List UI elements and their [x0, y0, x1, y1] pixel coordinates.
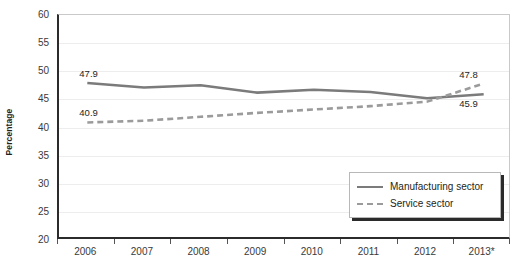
x-axis-tickmark: [340, 239, 341, 244]
x-axis-tickmark: [170, 239, 171, 244]
x-axis-tick-labels: 20062007200820092010201120122013*: [57, 239, 510, 265]
series-line-service-sector: [87, 84, 483, 123]
x-axis-tickmark: [57, 239, 58, 244]
y-axis-tick-30: 30: [38, 177, 49, 188]
x-axis-tickmark: [227, 239, 228, 244]
x-axis-tick-2012: 2012: [414, 246, 436, 257]
legend-label-service: Service sector: [390, 198, 453, 209]
data-label-47-8: 47.8: [459, 69, 478, 80]
x-axis-tickmark: [114, 239, 115, 244]
x-axis-tick-2007: 2007: [131, 246, 153, 257]
series-line-manufacturing-sector: [87, 83, 483, 98]
legend-swatch-solid-icon: [357, 182, 383, 192]
legend-label-manufacturing: Manufacturing sector: [390, 181, 483, 192]
x-axis-tick-2006: 2006: [74, 246, 96, 257]
y-axis-tick-35: 35: [38, 149, 49, 160]
y-axis-tick-45: 45: [38, 93, 49, 104]
data-label-45-9: 45.9: [459, 98, 478, 109]
data-label-47-9: 47.9: [79, 68, 98, 79]
x-axis-tickmark: [397, 239, 398, 244]
y-axis-tick-20: 20: [38, 234, 49, 245]
x-axis-tick-2008: 2008: [187, 246, 209, 257]
x-axis-tickmark: [453, 239, 454, 244]
y-axis-tick-40: 40: [38, 121, 49, 132]
y-axis-tick-labels: 202530354045505560: [0, 0, 57, 241]
y-axis-tick-55: 55: [38, 37, 49, 48]
legend-item-manufacturing: Manufacturing sector: [357, 179, 492, 194]
x-axis-tick-2009: 2009: [244, 246, 266, 257]
x-axis-tickmark: [284, 239, 285, 244]
x-axis-tick-2010: 2010: [301, 246, 323, 257]
legend-swatch-dashed-icon: [357, 199, 383, 209]
y-axis-tick-50: 50: [38, 65, 49, 76]
y-axis-tick-25: 25: [38, 205, 49, 216]
legend-item-service: Service sector: [357, 196, 492, 211]
x-axis-tick-2013-prov: 2013*: [469, 246, 495, 257]
chart-legend: Manufacturing sector Service sector: [349, 172, 501, 218]
x-axis-tick-2011: 2011: [358, 246, 380, 257]
x-axis-tickmark: [509, 239, 510, 244]
data-label-40-9: 40.9: [79, 107, 98, 118]
chart-container: Percentage 202530354045505560 2006200720…: [0, 0, 519, 266]
y-axis-tick-60: 60: [38, 9, 49, 20]
